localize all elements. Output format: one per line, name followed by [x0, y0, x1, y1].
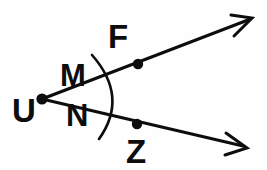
angle-diagram: U F Z M N [0, 0, 267, 170]
angle-arc [92, 55, 112, 139]
point-dot-f [133, 59, 143, 69]
label-u: U [12, 92, 36, 129]
diagram-canvas: U F Z M N [0, 0, 267, 170]
label-n: N [66, 98, 88, 133]
vertex-dot-u [36, 93, 47, 104]
label-f: F [108, 18, 128, 55]
label-z: Z [126, 133, 146, 170]
point-dot-z [132, 119, 142, 129]
label-m: M [60, 58, 86, 93]
